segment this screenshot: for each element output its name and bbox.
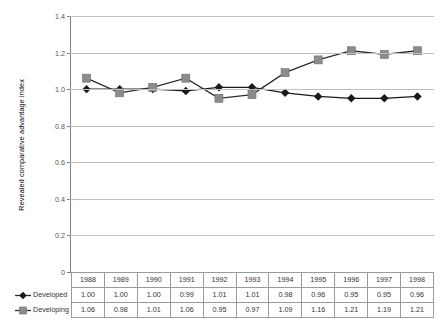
legend-label: Developed <box>33 288 67 302</box>
table-cell-value: 1.06 <box>72 303 105 318</box>
table-header-year: 1998 <box>401 273 434 288</box>
gridline <box>70 199 434 200</box>
y-axis-title: Revealed comparative advantage index <box>14 40 28 250</box>
y-axis-tick-label: 0.2 <box>55 231 65 240</box>
table-header-year: 1996 <box>335 273 368 288</box>
chart-figure: Revealed comparative advantage index 00.… <box>0 0 446 327</box>
legend-key-developing: Developing <box>14 303 72 318</box>
gridline <box>70 235 434 236</box>
table-cell-value: 0.96 <box>401 288 434 303</box>
gridline <box>70 126 434 127</box>
table-cell-value: 1.09 <box>269 303 302 318</box>
table-cell-value: 1.21 <box>335 303 368 318</box>
data-point-developing-1994 <box>281 69 289 77</box>
y-axis-tick <box>67 16 70 17</box>
gridline <box>70 162 434 163</box>
y-axis-tick-label: 0.4 <box>55 194 65 203</box>
legend-key-developed: Developed <box>14 288 72 303</box>
table-cell-value: 0.95 <box>335 288 368 303</box>
y-axis-tick-labels: 00.20.40.60.81.01.21.4 <box>46 16 65 272</box>
gridline <box>70 16 434 17</box>
data-point-developed-1995 <box>314 92 322 100</box>
legend-square-marker-icon <box>15 305 31 316</box>
data-point-developing-1992 <box>215 94 223 102</box>
table-header-year: 1991 <box>170 273 203 288</box>
table-corner-cell <box>14 273 72 288</box>
legend-diamond-marker-icon <box>15 290 31 301</box>
table-cell-value: 1.19 <box>368 303 401 318</box>
table-header-year: 1990 <box>137 273 170 288</box>
y-axis-tick <box>67 162 70 163</box>
data-point-developing-1991 <box>182 74 190 82</box>
data-point-developed-1993 <box>248 83 256 91</box>
table-cell-value: 0.95 <box>368 288 401 303</box>
plot-area <box>70 16 434 272</box>
table-cell-value: 1.00 <box>104 288 137 303</box>
y-axis-tick-label: 1.4 <box>55 12 65 21</box>
data-point-developing-1988 <box>83 74 91 82</box>
table-cell-value: 0.95 <box>203 303 236 318</box>
table-cell-value: 1.01 <box>203 288 236 303</box>
table-header-year: 1989 <box>104 273 137 288</box>
table-cell-value: 1.21 <box>401 303 434 318</box>
data-table: 1988198919901991199219931994199519961997… <box>14 272 434 318</box>
table-cell-value: 1.16 <box>302 303 335 318</box>
table-cell-value: 1.01 <box>137 303 170 318</box>
table-header-year: 1997 <box>368 273 401 288</box>
y-axis-tick <box>67 126 70 127</box>
table-header-year: 1994 <box>269 273 302 288</box>
table-row: Developed1.001.001.000.991.011.010.980.9… <box>14 288 434 303</box>
table-cell-value: 1.01 <box>236 288 269 303</box>
y-axis-title-label: Revealed comparative advantage index <box>17 79 26 211</box>
legend-entry: Developed <box>15 288 71 302</box>
y-axis-tick-label: 1.2 <box>55 48 65 57</box>
y-axis-tick <box>67 235 70 236</box>
series-lines <box>70 16 434 272</box>
table-row: Developing1.060.981.011.060.950.971.091.… <box>14 303 434 318</box>
y-axis-tick-label: 0.6 <box>55 158 65 167</box>
data-point-developing-1995 <box>314 56 322 64</box>
table-header-year: 1992 <box>203 273 236 288</box>
table-header-row: 1988198919901991199219931994199519961997… <box>14 273 434 288</box>
y-axis-tick-label: 1.0 <box>55 85 65 94</box>
legend-label: Developing <box>33 303 69 317</box>
y-axis-tick <box>67 199 70 200</box>
table-header-year: 1995 <box>302 273 335 288</box>
y-axis-tick <box>67 53 70 54</box>
data-point-developed-1996 <box>347 94 355 102</box>
table-header-year: 1988 <box>72 273 105 288</box>
data-point-developed-1991 <box>182 87 190 95</box>
table-cell-value: 0.98 <box>269 288 302 303</box>
table-cell-value: 1.06 <box>170 303 203 318</box>
data-point-developed-1992 <box>215 83 223 91</box>
table-header-year: 1993 <box>236 273 269 288</box>
table-cell-value: 0.98 <box>104 303 137 318</box>
table-cell-value: 1.00 <box>72 288 105 303</box>
y-axis-tick-label: 0.8 <box>55 121 65 130</box>
table-cell-value: 0.96 <box>302 288 335 303</box>
data-point-developing-1993 <box>248 91 256 99</box>
legend-entry: Developing <box>15 303 71 317</box>
table-cell-value: 0.99 <box>170 288 203 303</box>
data-point-developed-1998 <box>413 92 421 100</box>
y-axis-tick <box>67 89 70 90</box>
gridline <box>70 89 434 90</box>
table-cell-value: 1.00 <box>137 288 170 303</box>
table-cell-value: 0.97 <box>236 303 269 318</box>
gridline <box>70 53 434 54</box>
data-point-developed-1997 <box>380 94 388 102</box>
